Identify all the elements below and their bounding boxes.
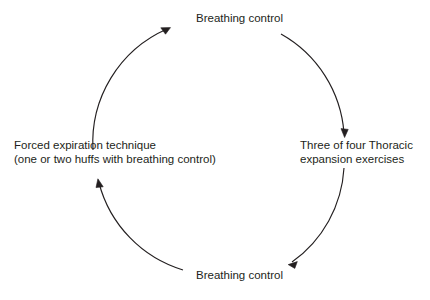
arrow-top-to-right-head — [341, 129, 348, 138]
arrow-top-to-right-arc — [281, 34, 344, 133]
arrow-right-to-bottom-arc — [292, 168, 344, 262]
arrow-bottom-to-left-arc — [99, 183, 183, 270]
node-label-thoracic-expansion-exercises: Three of four Thoracicexpansion exercise… — [300, 138, 413, 166]
cycle-diagram: Breathing control Three of four Thoracic… — [0, 0, 430, 300]
node-label-right-line1: Three of four Thoracic — [300, 139, 413, 151]
node-label-right-line2: expansion exercises — [300, 153, 404, 165]
node-label-breathing-control-bottom: Breathing control — [196, 268, 283, 282]
arrow-right-to-bottom — [288, 168, 344, 268]
node-label-left-line1: Forced expiration technique — [14, 139, 156, 151]
node-label-forced-expiration-technique: Forced expiration technique(one or two h… — [14, 138, 216, 166]
arrow-right-to-bottom-head — [288, 262, 297, 269]
arrow-left-to-top-arc — [93, 29, 167, 150]
arrow-left-to-top — [93, 28, 171, 150]
arrow-bottom-to-left — [96, 179, 183, 270]
arrow-top-to-right — [281, 34, 348, 138]
node-label-left-line2: (one or two huffs with breathing control… — [14, 153, 216, 165]
arrow-bottom-to-left-head — [96, 179, 103, 188]
node-label-breathing-control-top: Breathing control — [196, 11, 283, 25]
